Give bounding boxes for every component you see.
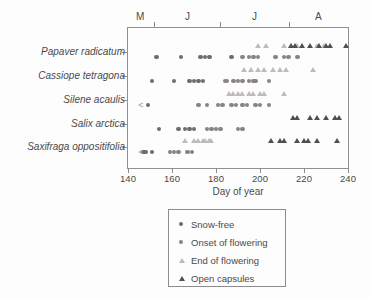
legend-label: Snow-free (191, 219, 234, 230)
marker-end-of-flowering (208, 138, 214, 143)
marker-open-capsules (281, 138, 287, 143)
x-axis-title: Day of year (178, 186, 298, 197)
marker-open-capsules (327, 43, 333, 48)
marker-open-capsules (323, 115, 329, 120)
legend-triangle-icon (179, 258, 191, 263)
legend-item: Open capsules (179, 269, 285, 287)
month-label: M (130, 11, 150, 22)
legend-label: Onset of flowering (191, 237, 268, 248)
marker-open-capsules (336, 115, 342, 120)
species-label: Silene acaulis (0, 94, 125, 105)
month-boundary-tick (220, 22, 221, 27)
marker-open-capsules (305, 138, 311, 143)
marker-snow-free (154, 55, 158, 59)
censored-less-than-marker: < (138, 148, 143, 156)
marker-onset-of-flowering (286, 55, 290, 59)
legend-circle-icon (179, 240, 191, 244)
marker-onset-of-flowering (229, 103, 233, 107)
marker-open-capsules (343, 43, 349, 48)
marker-open-capsules (307, 115, 313, 120)
x-tick-label: 220 (289, 173, 319, 184)
legend-item: Onset of flowering (179, 233, 285, 251)
marker-onset-of-flowering (240, 55, 244, 59)
month-boundary-tick (289, 22, 290, 27)
marker-open-capsules (314, 138, 320, 143)
marker-onset-of-flowering (240, 127, 244, 131)
x-tick-label: 160 (157, 173, 187, 184)
legend-item: End of flowering (179, 251, 285, 269)
marker-onset-of-flowering (295, 55, 299, 59)
phenology-scatter-figure: Day of year Snow-freeOnset of floweringE… (0, 0, 372, 298)
marker-open-capsules (316, 43, 322, 48)
species-label: Papaver radicatum (0, 46, 125, 57)
marker-end-of-flowering (281, 43, 287, 48)
marker-snow-free (196, 79, 200, 83)
plot-area (127, 27, 349, 169)
marker-open-capsules (268, 138, 274, 143)
month-label: J (177, 11, 197, 22)
marker-end-of-flowering (281, 91, 287, 96)
marker-snow-free (229, 55, 233, 59)
marker-end-of-flowering (182, 138, 188, 143)
month-label: A (308, 11, 328, 22)
marker-onset-of-flowering (176, 150, 180, 154)
marker-onset-of-flowering (240, 79, 244, 83)
marker-open-capsules (292, 43, 298, 48)
marker-end-of-flowering (248, 67, 254, 72)
marker-end-of-flowering (270, 67, 276, 72)
marker-open-capsules (299, 43, 305, 48)
marker-end-of-flowering (255, 67, 261, 72)
legend-label: End of flowering (191, 255, 259, 266)
marker-onset-of-flowering (273, 55, 277, 59)
month-boundary-tick (154, 22, 155, 27)
marker-snow-free (143, 150, 147, 154)
marker-end-of-flowering (261, 91, 267, 96)
marker-open-capsules (307, 43, 313, 48)
marker-end-of-flowering (261, 67, 267, 72)
x-tick-label: 180 (201, 173, 231, 184)
x-tick-label: 200 (245, 173, 275, 184)
legend-item: Snow-free (179, 215, 285, 233)
marker-snow-free (207, 55, 211, 59)
marker-end-of-flowering (283, 67, 289, 72)
censored-less-than-marker: < (138, 101, 143, 109)
marker-end-of-flowering (239, 91, 245, 96)
marker-end-of-flowering (310, 67, 316, 72)
marker-onset-of-flowering (218, 127, 222, 131)
legend-triangle-icon (179, 276, 191, 281)
marker-end-of-flowering (277, 67, 283, 72)
marker-end-of-flowering (241, 67, 247, 72)
legend: Snow-freeOnset of floweringEnd of flower… (168, 209, 286, 287)
marker-onset-of-flowering (220, 103, 224, 107)
x-tick-label: 140 (113, 173, 143, 184)
marker-onset-of-flowering (253, 79, 257, 83)
marker-open-capsules (294, 115, 300, 120)
marker-end-of-flowering (255, 43, 261, 48)
marker-onset-of-flowering (251, 55, 255, 59)
marker-onset-of-flowering (196, 103, 200, 107)
legend-circle-icon (179, 222, 191, 226)
marker-open-capsules (314, 115, 320, 120)
x-tick-label: 240 (333, 173, 363, 184)
legend-label: Open capsules (191, 273, 254, 284)
marker-onset-of-flowering (240, 103, 244, 107)
marker-end-of-flowering (250, 91, 256, 96)
species-label: Salix arctica (0, 118, 125, 129)
marker-snow-free (176, 127, 180, 131)
marker-end-of-flowering (263, 43, 269, 48)
month-label: J (245, 11, 265, 22)
marker-open-capsules (334, 138, 340, 143)
species-label: Saxifraga oppositifolia (0, 141, 125, 152)
marker-onset-of-flowering (185, 150, 189, 154)
marker-open-capsules (294, 138, 300, 143)
species-label: Cassiope tetragona (0, 70, 125, 81)
